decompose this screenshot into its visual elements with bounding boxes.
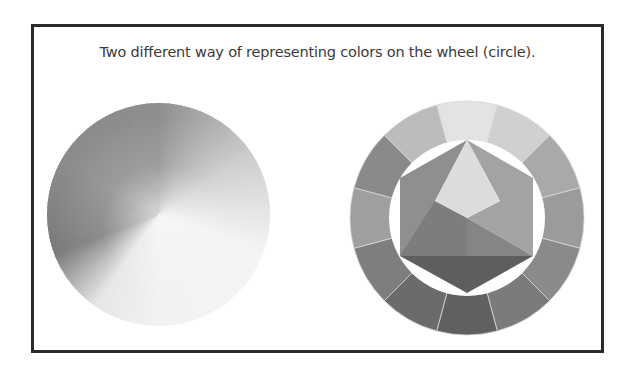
- gradient-wheel-graphic: [47, 103, 270, 326]
- figure-caption: Two different way of representing colors…: [34, 44, 601, 60]
- gradient-color-wheel: [47, 103, 270, 326]
- segmented-wheel-graphic: [349, 100, 585, 336]
- segmented-color-wheel: [349, 100, 585, 336]
